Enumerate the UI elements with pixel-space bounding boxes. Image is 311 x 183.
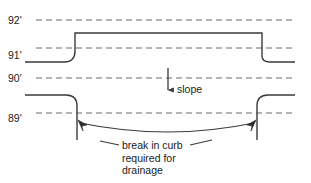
- caption-line-3: drainage: [122, 164, 163, 176]
- break-arc-curve: [80, 123, 254, 132]
- break-arc-left-arrowhead: [78, 120, 87, 131]
- diagram-canvas: 92' 91' 90' 89' slope break in: [0, 0, 311, 183]
- caption-leader-right: [190, 140, 212, 145]
- lower-curb-right-profile: [257, 95, 295, 140]
- elevation-labels: 92' 91' 90' 89': [8, 14, 22, 124]
- elevation-label-91: 91': [8, 49, 22, 61]
- break-in-curb-arc: [78, 120, 256, 132]
- caption-line-1: break in curb: [122, 139, 183, 151]
- elevation-label-92: 92': [8, 14, 22, 26]
- slope-arrow: slope: [168, 68, 202, 95]
- break-arc-right-arrowhead: [247, 120, 256, 131]
- break-caption: break in curb required for drainage: [122, 139, 183, 176]
- caption-leader-left: [100, 141, 119, 145]
- caption-line-2: required for: [122, 152, 176, 164]
- lower-curb-left-profile: [25, 95, 77, 140]
- elevation-label-89: 89': [8, 112, 22, 124]
- slope-arrow-label: slope: [177, 83, 202, 95]
- curb-drainage-diagram: 92' 91' 90' 89' slope break in: [0, 0, 311, 183]
- elevation-label-90: 90': [8, 72, 22, 84]
